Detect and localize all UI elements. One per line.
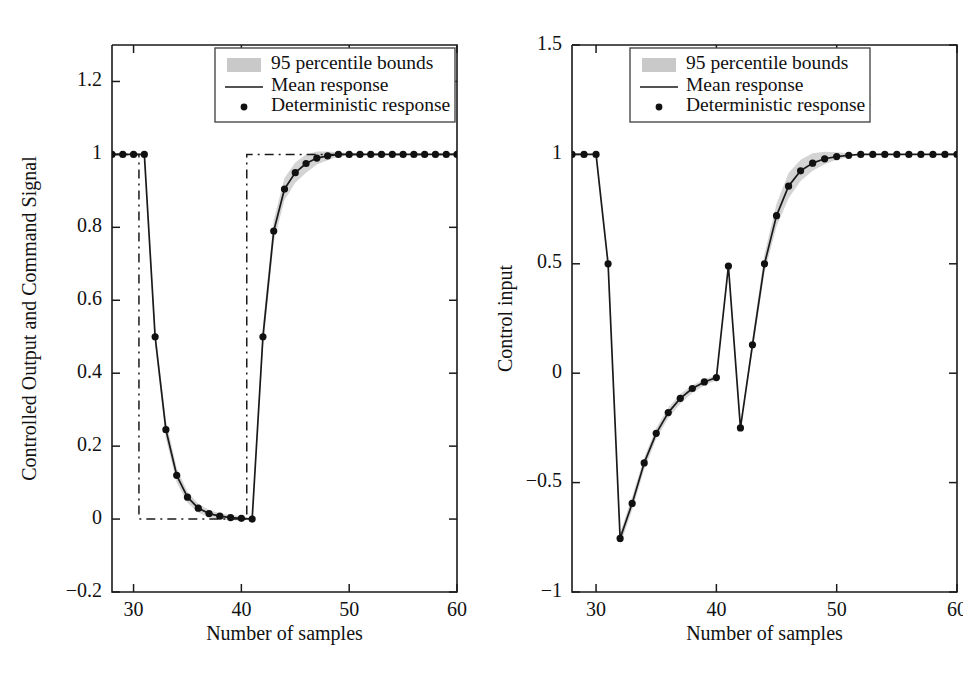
deterministic-response-marker	[785, 183, 792, 190]
deterministic-response-marker	[665, 409, 672, 416]
deterministic-response-marker	[141, 151, 148, 158]
deterministic-response-marker	[749, 341, 756, 348]
left-plot-svg: −0.200.20.40.60.811.230405060Number of s…	[0, 0, 480, 689]
y-tick-label: 0.2	[77, 433, 102, 455]
deterministic-response-marker	[941, 151, 948, 158]
deterministic-response-marker	[421, 151, 428, 158]
y-tick-label: 0.6	[77, 287, 102, 309]
legend: 95 percentile boundsMean responseDetermi…	[215, 48, 455, 122]
deterministic-response-marker	[367, 151, 374, 158]
x-axis-title: Number of samples	[206, 622, 363, 645]
x-tick-label: 60	[947, 598, 963, 620]
y-tick-label: −0.2	[66, 579, 102, 601]
command-signal-line	[112, 154, 457, 519]
mean-response-line	[112, 154, 457, 519]
deterministic-response-marker	[346, 151, 353, 158]
x-tick-label: 50	[339, 598, 359, 620]
y-tick-label: 1	[92, 141, 102, 163]
legend-band-swatch	[227, 58, 261, 72]
deterministic-response-marker	[227, 514, 234, 521]
y-tick-label: −1	[541, 579, 562, 601]
x-tick-label: 30	[586, 598, 606, 620]
deterministic-response-marker	[653, 430, 660, 437]
deterministic-response-marker	[677, 395, 684, 402]
deterministic-response-marker	[238, 515, 245, 522]
y-tick-label: 1.2	[77, 68, 102, 90]
y-tick-label: 0.4	[77, 360, 102, 382]
deterministic-response-marker	[162, 426, 169, 433]
deterministic-response-marker	[173, 472, 180, 479]
legend-band-swatch	[642, 58, 676, 72]
deterministic-response-marker	[713, 374, 720, 381]
deterministic-response-marker	[929, 151, 936, 158]
deterministic-response-marker	[249, 515, 256, 522]
deterministic-response-marker	[270, 227, 277, 234]
legend: 95 percentile boundsMean responseDetermi…	[630, 48, 870, 122]
legend-item-label: Mean response	[686, 74, 804, 95]
deterministic-response-marker	[108, 151, 115, 158]
x-tick-label: 60	[447, 598, 467, 620]
legend-dot-sample	[656, 104, 663, 111]
deterministic-response-marker	[737, 424, 744, 431]
deterministic-response-marker	[205, 510, 212, 517]
deterministic-response-marker	[313, 154, 320, 161]
deterministic-response-marker	[356, 151, 363, 158]
y-tick-label: 0.5	[537, 250, 562, 272]
y-axis-title: Controlled Output and Command Signal	[18, 156, 41, 481]
deterministic-response-marker	[399, 151, 406, 158]
deterministic-response-marker	[443, 151, 450, 158]
deterministic-response-marker	[568, 151, 575, 158]
legend-item-label: Deterministic response	[271, 94, 450, 115]
deterministic-response-marker	[184, 494, 191, 501]
legend-item-label: 95 percentile bounds	[271, 52, 433, 73]
deterministic-response-marker	[592, 151, 599, 158]
legend-dot-sample	[241, 104, 248, 111]
deterministic-response-marker	[119, 151, 126, 158]
y-tick-label: 1	[552, 141, 562, 163]
deterministic-response-marker	[292, 169, 299, 176]
legend-item-label: Deterministic response	[686, 94, 865, 115]
deterministic-response-marker	[389, 151, 396, 158]
deterministic-response-marker	[629, 500, 636, 507]
percentile-band	[572, 152, 957, 545]
deterministic-response-marker	[761, 260, 768, 267]
deterministic-response-marker	[773, 212, 780, 219]
deterministic-response-marker	[130, 151, 137, 158]
deterministic-response-marker	[641, 459, 648, 466]
deterministic-response-marker	[281, 185, 288, 192]
deterministic-response-marker	[857, 151, 864, 158]
deterministic-response-marker	[905, 151, 912, 158]
chart-panel-right: −1−0.500.511.530405060Number of samplesC…	[480, 0, 963, 689]
deterministic-response-marker	[195, 505, 202, 512]
x-tick-label: 40	[706, 598, 726, 620]
deterministic-response-marker	[845, 152, 852, 159]
deterministic-response-marker	[953, 151, 960, 158]
deterministic-response-marker	[453, 151, 460, 158]
deterministic-response-marker	[893, 151, 900, 158]
y-tick-label: 0.8	[77, 214, 102, 236]
right-plot-svg: −1−0.500.511.530405060Number of samplesC…	[480, 0, 963, 689]
y-tick-label: 1.5	[537, 32, 562, 54]
x-tick-label: 40	[231, 598, 251, 620]
deterministic-response-marker	[725, 262, 732, 269]
legend-item-label: Mean response	[271, 74, 389, 95]
percentile-band	[112, 151, 457, 520]
deterministic-response-marker	[617, 535, 624, 542]
deterministic-response-marker	[324, 152, 331, 159]
deterministic-response-marker	[604, 260, 611, 267]
y-tick-label: 0	[552, 360, 562, 382]
y-axis-title: Control input	[494, 264, 517, 372]
deterministic-response-marker	[152, 333, 159, 340]
figure-container: −0.200.20.40.60.811.230405060Number of s…	[0, 0, 963, 689]
x-tick-label: 30	[124, 598, 144, 620]
deterministic-response-marker	[797, 167, 804, 174]
mean-response-line	[572, 154, 957, 538]
deterministic-response-marker	[821, 155, 828, 162]
deterministic-response-marker	[216, 513, 223, 520]
deterministic-response-marker	[881, 151, 888, 158]
chart-panel-left: −0.200.20.40.60.811.230405060Number of s…	[0, 0, 480, 689]
deterministic-response-marker	[302, 160, 309, 167]
x-tick-label: 50	[827, 598, 847, 620]
y-tick-label: −0.5	[526, 469, 562, 491]
deterministic-response-marker	[378, 151, 385, 158]
